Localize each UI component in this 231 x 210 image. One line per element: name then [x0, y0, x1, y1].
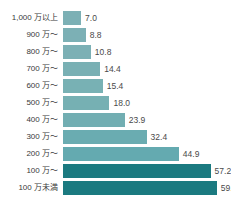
bar-track: 32.4: [63, 130, 231, 144]
category-label: 100 万未満: [0, 181, 58, 195]
bar-track: 18.0: [63, 96, 231, 110]
bar-value-label: 23.9: [129, 113, 146, 127]
bar-value-label: 59.6: [221, 181, 231, 195]
bar-value-label: 18.0: [113, 96, 130, 110]
category-label: 600 万～: [0, 79, 58, 93]
bar: [63, 45, 91, 59]
bar-value-label: 8.8: [90, 28, 102, 42]
chart-bar-row: 800 万～10.8: [0, 45, 231, 59]
chart-bar-row: 500 万～18.0: [0, 96, 231, 110]
category-label: 100 万～: [0, 164, 58, 178]
bar-value-label: 10.8: [95, 45, 112, 59]
bar: [63, 113, 125, 127]
chart-bar-row: 400 万～23.9: [0, 113, 231, 127]
bar-track: 59.6: [63, 181, 231, 195]
bar-value-label: 7.0: [85, 11, 97, 25]
bar-value-label: 32.4: [151, 130, 168, 144]
bar-track: 44.9: [63, 147, 231, 161]
category-label: 900 万～: [0, 28, 58, 42]
bar-track: 57.2: [63, 164, 231, 178]
category-label: 200 万～: [0, 147, 58, 161]
bar: [63, 164, 211, 178]
chart-bar-row: 100 万～57.2: [0, 164, 231, 178]
category-label: 400 万～: [0, 113, 58, 127]
bar-track: 8.8: [63, 28, 231, 42]
category-label: 800 万～: [0, 45, 58, 59]
bar-value-label: 15.4: [107, 79, 124, 93]
bar: [63, 11, 81, 25]
bar: [63, 28, 86, 42]
bar: [63, 79, 103, 93]
chart-bar-row: 600 万～15.4: [0, 79, 231, 93]
bar-track: 14.4: [63, 62, 231, 76]
chart-bar-row: 1,000 万以上7.0: [0, 11, 231, 25]
category-label: 1,000 万以上: [0, 11, 58, 25]
bar-track: 23.9: [63, 113, 231, 127]
bar-value-label: 57.2: [215, 164, 231, 178]
bar-track: 10.8: [63, 45, 231, 59]
chart-bar-row: 100 万未満59.6: [0, 181, 231, 195]
chart-bar-row: 900 万～8.8: [0, 28, 231, 42]
bar: [63, 96, 109, 110]
bar-track: 15.4: [63, 79, 231, 93]
category-label: 500 万～: [0, 96, 58, 110]
chart-bar-row: 300 万～32.4: [0, 130, 231, 144]
bar-value-label: 44.9: [183, 147, 200, 161]
bar-track: 7.0: [63, 11, 231, 25]
bar: [63, 62, 100, 76]
chart-bar-row: 700 万～14.4: [0, 62, 231, 76]
horizontal-bar-chart: 1,000 万以上7.0900 万～8.8800 万～10.8700 万～14.…: [0, 0, 231, 210]
chart-bar-row: 200 万～44.9: [0, 147, 231, 161]
bar: [63, 147, 179, 161]
bar-value-label: 14.4: [104, 62, 121, 76]
category-label: 300 万～: [0, 130, 58, 144]
bar: [63, 130, 147, 144]
bar: [63, 181, 217, 195]
category-label: 700 万～: [0, 62, 58, 76]
